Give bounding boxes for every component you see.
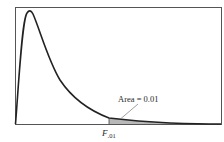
density-curve xyxy=(16,11,222,124)
area-annotation: Area = 0.01 xyxy=(118,94,158,104)
critical-value-label-sub: .01 xyxy=(108,132,116,139)
critical-value-label: F.01 xyxy=(101,128,116,139)
f-distribution-chart: Area = 0.01 F.01 xyxy=(0,0,224,142)
plot-frame xyxy=(16,8,222,125)
chart-svg: Area = 0.01 F.01 xyxy=(0,0,224,142)
annotation-leader xyxy=(121,104,138,119)
